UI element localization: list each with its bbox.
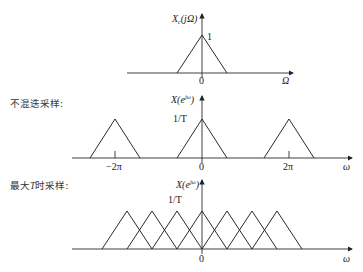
tick-label-minus-2pi: −2π [106,161,122,172]
spectrum-triangle [127,211,177,249]
tick-label-zero: 0 [199,161,204,172]
max-T-panel: 最大T时采样: X(ejω) 1/T 0 ω [10,179,352,264]
x-axis-label: ω [343,253,350,264]
spectrum-triangle [202,211,252,249]
max-T-caption: 最大T时采样: [10,180,69,191]
peak-label: 1 [207,31,212,42]
y-axis-label: X(ejω) [175,179,200,191]
sampling-spectrum-diagram: Xc(jΩ) 1 0 Ω 不混迭采样: X(ejω) 1/T −2π 0 2π … [0,0,363,272]
spectrum-triangle [102,211,152,249]
spectrum-triangle [252,211,302,249]
no-aliasing-panel: 不混迭采样: X(ejω) 1/T −2π 0 2π ω [10,94,352,172]
spectrum-triangle [227,211,277,249]
origin-label: 0 [199,75,204,86]
no-aliasing-caption: 不混迭采样: [10,98,63,109]
x-axis-label: ω [343,161,350,172]
origin-label: 0 [199,253,204,264]
spectrum-triangle [152,211,202,249]
tick-label-plus-2pi: 2π [283,161,293,172]
peak-label: 1/T [173,113,187,124]
x-axis-label: Ω [282,75,289,86]
y-axis-label: X(ejω) [170,94,195,106]
continuous-spectrum-panel: Xc(jΩ) 1 0 Ω [127,13,293,86]
peak-label: 1/T [168,194,182,205]
y-axis-label: Xc(jΩ) [171,13,198,25]
